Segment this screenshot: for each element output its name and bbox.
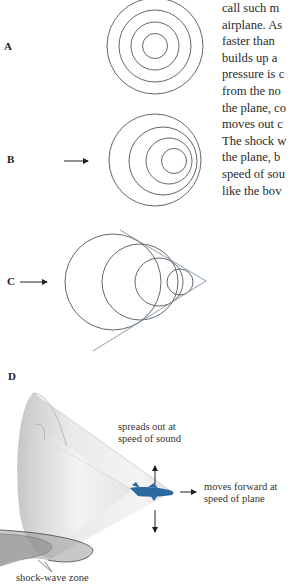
panel-b-compressed-circles — [109, 114, 201, 206]
panel-c-mach-cone-lines — [93, 230, 206, 351]
panel-a-concentric-circles — [107, 0, 203, 94]
panel-a-label: A — [4, 40, 12, 52]
panel-d-label: D — [8, 370, 16, 382]
annotation-shock-wave-zone: shock-wave zone — [16, 572, 89, 584]
annotation-line: moves forward at — [204, 481, 277, 493]
annotation-line: spreads out at — [118, 421, 181, 433]
annotation-moves-forward: moves forward at speed of plane — [204, 481, 277, 505]
panel-b-label: B — [7, 153, 14, 165]
annotation-line: speed of plane — [204, 493, 277, 505]
panel-c-shock-circles — [65, 234, 193, 330]
panel-c-label: C — [7, 275, 15, 287]
annotation-line: speed of sound — [118, 433, 181, 445]
annotation-spreads-out: spreads out at speed of sound — [118, 421, 181, 445]
panel-d-shock-cone — [0, 393, 172, 572]
